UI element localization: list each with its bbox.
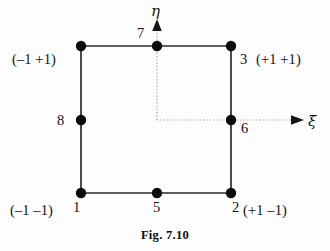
node-label-6: 6 bbox=[241, 121, 248, 136]
node-marker-3 bbox=[226, 41, 236, 51]
node-label-7: 7 bbox=[137, 26, 144, 41]
node-marker-1 bbox=[76, 188, 86, 198]
node-marker-7 bbox=[152, 41, 162, 51]
eta-arrowhead-icon bbox=[152, 19, 162, 31]
node-marker-4 bbox=[76, 41, 86, 51]
axis-guide-lines bbox=[157, 46, 231, 120]
eta-axis-label: η bbox=[151, 4, 160, 19]
node-label-1: 1 bbox=[73, 200, 80, 215]
node-markers bbox=[76, 41, 236, 198]
node-label-8: 8 bbox=[57, 113, 64, 128]
eta-axis bbox=[152, 19, 162, 44]
corner-coordinate-top-right: (+1 +1) bbox=[256, 52, 301, 67]
figure-caption: Fig. 7.10 bbox=[0, 228, 330, 243]
corner-coordinate-top-left: (–1 +1) bbox=[12, 52, 56, 67]
node-label-5: 5 bbox=[153, 200, 160, 215]
node-marker-2 bbox=[226, 188, 236, 198]
element-outline bbox=[81, 46, 231, 193]
node-marker-6 bbox=[226, 115, 236, 125]
xi-arrowhead-icon bbox=[291, 115, 304, 125]
node-label-2: 2 bbox=[232, 200, 239, 215]
corner-coordinate-bottom-right: (+1 –1) bbox=[243, 203, 287, 218]
node-marker-8 bbox=[76, 115, 86, 125]
node-marker-5 bbox=[152, 188, 162, 198]
xi-axis-label: ξ bbox=[308, 114, 316, 129]
node-label-3: 3 bbox=[240, 52, 247, 67]
figure-7-10: (–1 +1) (+1 +1) (–1 –1) (+1 –1) 1 2 3 5 … bbox=[0, 0, 330, 251]
corner-coordinate-bottom-left: (–1 –1) bbox=[10, 203, 53, 218]
